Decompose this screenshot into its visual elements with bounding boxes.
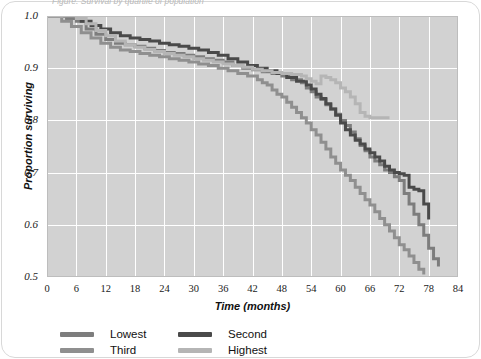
x-axis-tick-label: 0	[35, 283, 59, 294]
curve-lowest	[47, 16, 438, 267]
legend-swatch-lowest	[60, 332, 94, 337]
x-axis-tick-label: 36	[211, 283, 235, 294]
x-axis-tick-label: 72	[387, 283, 411, 294]
legend-label-second: Second	[228, 328, 298, 340]
legend-swatch-second	[178, 332, 212, 337]
x-axis-tick-label: 12	[94, 283, 118, 294]
y-axis-tick-label: 1.0	[8, 9, 38, 21]
x-axis-tick-label: 48	[270, 283, 294, 294]
x-axis-tick-label: 42	[241, 283, 265, 294]
x-axis-tick-label: 18	[123, 283, 147, 294]
curve-third	[47, 16, 424, 274]
y-axis-label: Proportion surviving	[22, 61, 34, 211]
x-axis-tick-label: 84	[446, 283, 470, 294]
plot-area	[47, 16, 458, 277]
y-axis-tick-label: 0.5	[8, 270, 38, 282]
x-axis-tick-label: 66	[358, 283, 382, 294]
survival-curves	[47, 16, 458, 277]
gridline-vertical	[458, 16, 459, 277]
chart-legend: LowestSecondThirdHighest	[60, 326, 298, 358]
legend-swatch-third	[60, 348, 94, 353]
legend-swatch-highest	[178, 348, 212, 353]
x-axis-tick-label: 78	[417, 283, 441, 294]
legend-label-lowest: Lowest	[110, 328, 172, 340]
figure-caption: Figure: Survival by quartile of populati…	[52, 0, 392, 7]
x-axis-tick-label: 24	[152, 283, 176, 294]
legend-label-highest: Highest	[228, 344, 298, 356]
y-axis-tick-label: 0.6	[8, 218, 38, 230]
legend-label-third: Third	[110, 344, 172, 356]
x-axis-tick-label: 54	[299, 283, 323, 294]
x-axis-label: Time (months)	[47, 300, 458, 312]
x-axis-tick-label: 60	[329, 283, 353, 294]
x-axis-tick-label: 6	[64, 283, 88, 294]
x-axis-tick-label: 30	[182, 283, 206, 294]
chart-card: Figure: Survival by quartile of populati…	[0, 0, 481, 359]
